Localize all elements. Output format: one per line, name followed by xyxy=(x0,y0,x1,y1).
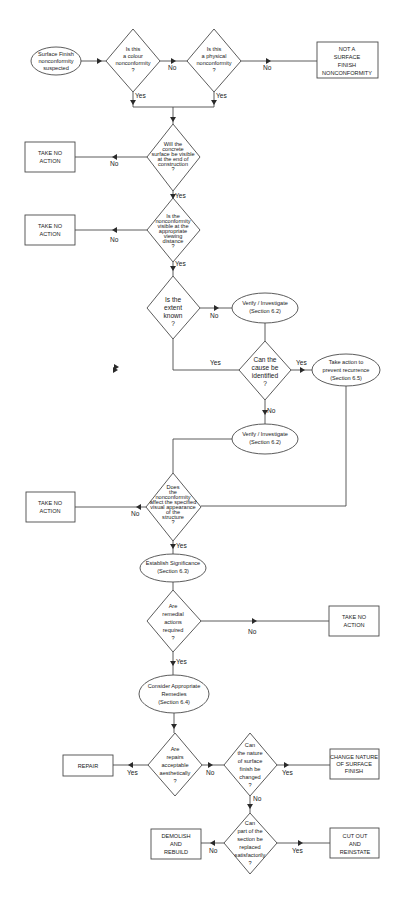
svg-text:Verify / Investigate: Verify / Investigate xyxy=(242,300,288,306)
svg-text:extent: extent xyxy=(164,304,182,311)
svg-text:(Section 6.2): (Section 6.2) xyxy=(249,308,281,314)
svg-text:AND: AND xyxy=(170,841,182,847)
svg-text:(Section 6.4): (Section 6.4) xyxy=(158,699,190,705)
svg-text:NONCONFORMITY: NONCONFORMITY xyxy=(322,70,372,76)
svg-text:finish be: finish be xyxy=(240,766,261,772)
decision-remedial-actions: Are remedial actions required ? xyxy=(147,590,201,652)
svg-text:?: ? xyxy=(131,67,134,73)
decision-repairs-acceptable: Are repairs acceptable aesthetically ? xyxy=(148,733,202,796)
svg-text:?: ? xyxy=(263,380,267,387)
process-verify-investigate-1: Verify / Investigate (Section 6.2) xyxy=(232,293,298,323)
svg-text:Remedies: Remedies xyxy=(161,691,186,697)
svg-text:TAKE NO: TAKE NO xyxy=(38,150,63,156)
terminal-cut-out-reinstate: CUT OUT AND REINSTATE xyxy=(330,828,379,858)
terminal-take-no-action-3: TAKE NO ACTION xyxy=(26,492,75,522)
start-node: Surface Finish nonconformity suspected xyxy=(31,47,81,75)
svg-text:satisfactorily: satisfactorily xyxy=(235,852,266,858)
svg-text:No: No xyxy=(209,847,218,854)
svg-text:No: No xyxy=(206,769,215,776)
terminal-take-no-action-2: TAKE NO ACTION xyxy=(25,215,75,245)
svg-text:REINSTATE: REINSTATE xyxy=(340,849,371,855)
svg-text:Surface Finish: Surface Finish xyxy=(38,51,74,57)
decision-affect-visual-appearance: Does the nonconformity affect the specif… xyxy=(146,473,201,541)
svg-text:actions: actions xyxy=(164,619,182,625)
svg-text:TAKE NO: TAKE NO xyxy=(38,500,63,506)
svg-text:Is this: Is this xyxy=(207,46,222,52)
svg-text:?: ? xyxy=(248,782,251,788)
svg-text:No: No xyxy=(210,312,219,319)
svg-text:FINISH: FINISH xyxy=(345,768,363,774)
svg-text:Yes: Yes xyxy=(176,542,187,549)
svg-text:Yes: Yes xyxy=(176,658,187,665)
svg-text:Yes: Yes xyxy=(127,769,138,776)
svg-text:identified: identified xyxy=(252,372,279,379)
svg-text:No: No xyxy=(110,236,119,243)
svg-text:CHANGE NATURE: CHANGE NATURE xyxy=(330,754,378,760)
svg-text:Take action to: Take action to xyxy=(329,359,364,365)
svg-text:CUT OUT: CUT OUT xyxy=(343,833,368,839)
terminal-take-no-action-4: TAKE NO ACTION xyxy=(329,606,379,636)
decision-colour-nonconformity: Is this a colour nonconformity ? xyxy=(106,29,160,92)
svg-text:ACTION: ACTION xyxy=(39,231,60,237)
svg-text:REBUILD: REBUILD xyxy=(164,849,188,855)
svg-text:Yes: Yes xyxy=(210,359,221,366)
decision-visible-end-of-construction: Will the concrete surface be visible at … xyxy=(147,124,200,191)
svg-text:nonconformity: nonconformity xyxy=(115,60,150,66)
terminal-not-surface-finish: NOT A SURFACE FINISH NONCONFORMITY xyxy=(317,42,378,78)
svg-text:Yes: Yes xyxy=(292,847,303,854)
decision-physical-nonconformity: Is this a physical nonconformity ? xyxy=(187,29,241,92)
svg-text:Is the: Is the xyxy=(165,296,181,303)
svg-text:(Section 6.3): (Section 6.3) xyxy=(157,568,189,574)
svg-text:the nature: the nature xyxy=(237,750,262,756)
svg-text:part of the: part of the xyxy=(237,828,262,834)
svg-text:acceptable: acceptable xyxy=(161,762,188,768)
svg-text:Yes: Yes xyxy=(296,359,307,366)
svg-text:cause be: cause be xyxy=(252,364,279,371)
svg-text:No: No xyxy=(248,628,257,635)
svg-text:a physical: a physical xyxy=(202,53,227,59)
svg-text:No: No xyxy=(110,160,119,167)
svg-text:Can: Can xyxy=(245,742,255,748)
decision-extent-known: Is the extent known ? xyxy=(147,276,200,339)
svg-text:known: known xyxy=(163,312,182,319)
svg-text:REPAIR: REPAIR xyxy=(78,763,98,769)
decision-visible-viewing-distance: Is the nonconformity visible at the appr… xyxy=(147,198,200,262)
svg-text:DEMOLISH: DEMOLISH xyxy=(161,833,190,839)
svg-text:(Section 6.5): (Section 6.5) xyxy=(330,375,362,381)
svg-text:Yes: Yes xyxy=(282,769,293,776)
svg-text:a colour: a colour xyxy=(123,53,143,59)
terminal-take-no-action-1: TAKE NO ACTION xyxy=(25,142,75,172)
svg-text:?: ? xyxy=(171,635,174,641)
svg-text:?: ? xyxy=(171,320,175,327)
svg-text:?: ? xyxy=(248,860,251,866)
svg-text:suspected: suspected xyxy=(43,65,69,71)
svg-text:?: ? xyxy=(171,519,174,525)
svg-text:Yes: Yes xyxy=(135,92,146,99)
svg-text:NOT A: NOT A xyxy=(339,46,356,52)
decision-change-surface-nature: Can the nature of surface finish be chan… xyxy=(224,733,277,796)
decision-replace-section: Can part of the section be replaced sati… xyxy=(224,813,277,874)
svg-text:No: No xyxy=(253,795,262,802)
svg-text:No: No xyxy=(267,407,276,414)
svg-text:nonconformity: nonconformity xyxy=(196,60,231,66)
terminal-demolish-rebuild: DEMOLISH AND REBUILD xyxy=(151,829,201,859)
svg-text:remedial: remedial xyxy=(162,611,183,617)
process-verify-investigate-2: Verify / Investigate (Section 6.2) xyxy=(232,424,298,454)
svg-text:repairs: repairs xyxy=(166,754,183,760)
svg-text:of surface: of surface xyxy=(238,758,263,764)
svg-text:Yes: Yes xyxy=(216,92,227,99)
svg-text:?: ? xyxy=(212,67,215,73)
svg-text:No: No xyxy=(131,510,140,517)
process-consider-remedies: Consider Appropriate Remedies (Section 6… xyxy=(139,675,209,713)
process-prevent-recurrence: Take action to prevent recurrence (Secti… xyxy=(312,354,380,386)
svg-text:TAKE NO: TAKE NO xyxy=(342,614,367,620)
terminal-repair: REPAIR xyxy=(63,755,113,776)
flowchart: Surface Finish nonconformity suspected I… xyxy=(0,0,405,905)
svg-text:prevent recurrence: prevent recurrence xyxy=(323,367,370,373)
svg-text:Consider Appropriate: Consider Appropriate xyxy=(148,683,201,689)
svg-text:No: No xyxy=(263,64,272,71)
svg-text:ACTION: ACTION xyxy=(39,158,60,164)
svg-text:?: ? xyxy=(171,243,174,249)
svg-text:No: No xyxy=(168,64,177,71)
svg-text:SURFACE: SURFACE xyxy=(334,54,361,60)
